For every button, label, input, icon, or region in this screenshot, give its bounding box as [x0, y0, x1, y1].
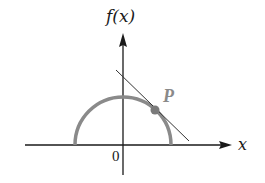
origin-label: 0 — [112, 149, 120, 164]
tangent-line — [116, 70, 189, 141]
y-axis-label: f(x) — [106, 8, 135, 25]
x-axis-label: x — [238, 137, 247, 153]
graph-canvas — [0, 0, 265, 183]
semicircle-tangent-diagram: f(x) x P 0 — [0, 0, 265, 183]
y-axis-arrow-icon — [119, 33, 127, 47]
point-p-label: P — [163, 87, 174, 105]
point-p-marker — [151, 106, 160, 115]
